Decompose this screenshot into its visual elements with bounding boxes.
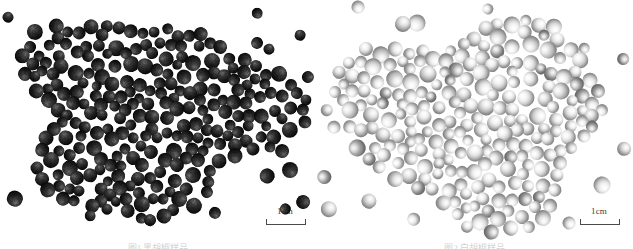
peppercorn bbox=[0, 10, 15, 25]
peppercorn bbox=[199, 184, 215, 200]
peppercorn bbox=[299, 68, 316, 85]
peppercorn bbox=[385, 69, 405, 89]
peppercorn bbox=[617, 142, 632, 157]
peppercorn bbox=[316, 168, 333, 187]
peppercorn bbox=[95, 108, 109, 122]
peppercorn bbox=[506, 74, 522, 90]
peppercorn bbox=[614, 50, 631, 67]
panel-black-pepper: 1cm 图1 黑胡椒样品 bbox=[0, 0, 316, 249]
peppercorn bbox=[350, 0, 366, 15]
peppercorn bbox=[281, 162, 297, 178]
peppercorn bbox=[208, 206, 222, 220]
caption-white-pepper: 图2 白胡椒样品 bbox=[316, 243, 633, 249]
peppercorn bbox=[261, 41, 276, 56]
peppercorn bbox=[320, 201, 338, 219]
scale-bar-white-pepper: 1cm bbox=[580, 208, 618, 228]
peppercorn bbox=[357, 71, 371, 85]
peppercorn bbox=[281, 121, 299, 139]
peppercorn bbox=[213, 137, 227, 151]
peppercorn bbox=[257, 166, 277, 186]
peppercorn bbox=[359, 191, 378, 210]
peppercorn bbox=[294, 28, 307, 41]
peppercorn bbox=[321, 104, 334, 117]
peppercorn bbox=[264, 141, 276, 153]
peppercorn bbox=[26, 23, 43, 40]
peppercorn bbox=[250, 7, 262, 19]
peppercorn bbox=[42, 38, 55, 51]
peppercorn bbox=[592, 175, 611, 194]
peppercorn bbox=[275, 143, 290, 158]
peppercorn bbox=[354, 123, 369, 138]
peppercorn bbox=[141, 97, 154, 110]
peppercorn bbox=[148, 27, 159, 38]
scale-bar-label: 1cm bbox=[580, 206, 618, 216]
scale-bar-rule bbox=[266, 219, 306, 225]
peppercorn bbox=[324, 118, 342, 136]
caption-black-pepper: 图1 黑胡椒样品 bbox=[0, 243, 316, 249]
peppercorn bbox=[250, 36, 264, 50]
peppercorn bbox=[561, 214, 578, 231]
scale-bar-rule bbox=[580, 219, 620, 225]
peppercorn bbox=[298, 116, 312, 130]
peppercorn bbox=[84, 210, 97, 223]
peppercorn bbox=[5, 189, 25, 209]
peppercorn bbox=[225, 146, 245, 166]
peppercorn bbox=[193, 40, 205, 52]
peppercorn bbox=[270, 65, 288, 83]
figure-sheet: 1cm 图1 黑胡椒样品 1cm 图2 白胡椒样品 bbox=[0, 0, 633, 249]
peppercorn bbox=[591, 84, 605, 98]
peppercorn bbox=[480, 1, 496, 17]
peppercorn bbox=[406, 211, 422, 227]
peppercorn bbox=[424, 181, 439, 196]
peppercorn bbox=[578, 130, 591, 143]
panel-white-pepper: 1cm 图2 白胡椒样品 bbox=[316, 0, 633, 249]
